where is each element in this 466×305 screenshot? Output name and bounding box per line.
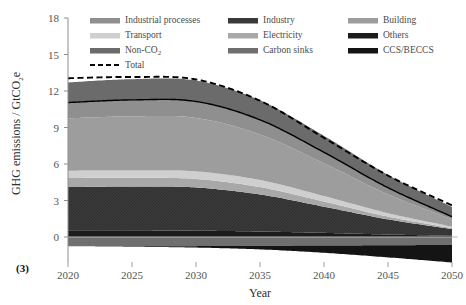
y-tick-label: 6 xyxy=(54,158,60,170)
legend-swatch xyxy=(348,33,378,39)
legend-swatch xyxy=(90,18,120,24)
legend-label: Industrial processes xyxy=(125,15,200,25)
legend-label: Carbon sinks xyxy=(263,45,313,55)
x-tick-label: 2035 xyxy=(249,269,272,281)
x-axis-title: Year xyxy=(249,286,271,300)
y-tick-label: 0 xyxy=(54,231,60,243)
legend-swatch xyxy=(228,18,258,24)
legend-label: Transport xyxy=(125,30,162,40)
x-tick-label: 2030 xyxy=(185,269,208,281)
y-tick-label: 12 xyxy=(48,85,59,97)
legend-label: Others xyxy=(383,30,409,40)
x-tick-label: 2040 xyxy=(313,269,336,281)
legend-swatch xyxy=(228,48,258,54)
legend-label: Electricity xyxy=(263,30,303,40)
x-tick-label: 2020 xyxy=(57,269,80,281)
y-axis-title: GHG emissions / GtCO2e xyxy=(9,72,25,195)
x-tick-label: 2050 xyxy=(441,269,464,281)
legend-swatch xyxy=(90,33,120,39)
legend-label: CCS/BECCS xyxy=(383,45,434,55)
x-tick-label: 2025 xyxy=(121,269,144,281)
y-tick-label: 3 xyxy=(54,195,60,207)
legend-label: Building xyxy=(383,15,417,25)
area-band-carbon-sinks xyxy=(68,237,452,246)
panel-tag: (3) xyxy=(16,262,29,275)
x-tick-label: 2045 xyxy=(377,269,400,281)
chart-figure: 03691215182020202520302035204020452050Ye… xyxy=(0,0,466,305)
stacked-area-chart: 03691215182020202520302035204020452050Ye… xyxy=(0,0,466,305)
legend-swatch xyxy=(348,48,378,54)
y-tick-label: 18 xyxy=(48,12,60,24)
y-tick-label: 9 xyxy=(54,122,60,134)
legend-swatch xyxy=(90,48,120,54)
y-tick-label: 15 xyxy=(48,49,60,61)
legend-swatch xyxy=(348,18,378,24)
legend-swatch xyxy=(228,33,258,39)
legend-label-total: Total xyxy=(125,60,145,70)
legend-label: Industry xyxy=(263,15,295,25)
